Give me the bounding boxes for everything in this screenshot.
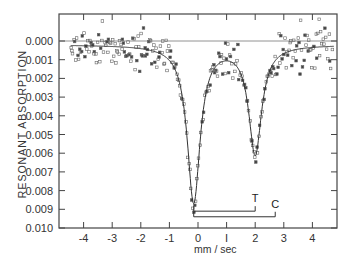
- x-tick-label: -1: [165, 232, 175, 244]
- x-tick-label: -4: [79, 232, 89, 244]
- data-point: [234, 70, 237, 73]
- data-point: [276, 73, 279, 76]
- data-point: [123, 51, 126, 54]
- data-point: [328, 60, 331, 63]
- x-tick-label: -2: [136, 232, 146, 244]
- data-point: [109, 42, 112, 45]
- data-point: [329, 67, 332, 70]
- mossbauer-spectrum-chart: 0.0000.0010.0020.0030.0040.0050.0060.007…: [0, 0, 352, 267]
- data-point: [121, 38, 124, 41]
- data-point: [95, 61, 98, 64]
- data-point: [115, 62, 118, 65]
- data-point: [166, 50, 169, 53]
- y-tick-label: 0.000: [25, 35, 53, 47]
- data-point: [284, 37, 287, 40]
- data-point: [282, 48, 285, 51]
- data-point: [277, 66, 280, 69]
- data-point: [236, 59, 239, 62]
- x-axis-title: mm / sec: [194, 243, 237, 255]
- data-point: [80, 50, 83, 53]
- data-point: [71, 52, 74, 55]
- x-tick-label: 4: [309, 232, 315, 244]
- data-point: [303, 59, 306, 62]
- data-point: [270, 72, 273, 75]
- data-point: [99, 47, 102, 50]
- data-point: [146, 53, 149, 56]
- y-tick-label: 0.009: [25, 203, 53, 215]
- data-point: [130, 60, 133, 63]
- data-point: [96, 41, 99, 44]
- data-point: [255, 161, 258, 164]
- data-point: [136, 59, 139, 62]
- data-point: [281, 58, 284, 61]
- y-tick-label: 0.002: [25, 72, 53, 84]
- data-point: [225, 58, 228, 61]
- data-point: [70, 46, 73, 49]
- data-point: [223, 57, 226, 60]
- data-point: [227, 71, 230, 74]
- y-tick-label: 0.003: [25, 91, 53, 103]
- data-point: [155, 47, 158, 50]
- data-point: [325, 48, 328, 51]
- data-point: [77, 58, 80, 61]
- data-point: [140, 32, 143, 35]
- data-point: [114, 42, 117, 45]
- data-point: [153, 44, 156, 47]
- data-point: [107, 51, 110, 54]
- data-point: [286, 54, 289, 57]
- data-point: [158, 56, 161, 59]
- data-point: [156, 66, 159, 69]
- data-point: [137, 45, 140, 48]
- data-point: [142, 27, 145, 30]
- data-point: [318, 18, 321, 21]
- data-point: [299, 73, 302, 76]
- data-point: [166, 69, 169, 72]
- data-point: [111, 60, 114, 63]
- data-point: [285, 67, 288, 70]
- data-point: [305, 44, 308, 47]
- data-point: [209, 84, 212, 87]
- data-point: [272, 67, 275, 70]
- data-point: [324, 27, 327, 30]
- data-point: [301, 66, 304, 69]
- data-point: [169, 50, 172, 53]
- data-point: [274, 55, 277, 58]
- data-point: [83, 32, 86, 35]
- data-point: [107, 38, 110, 41]
- y-tick-label: 0.004: [25, 110, 53, 122]
- data-point: [328, 33, 331, 36]
- data-point: [101, 39, 104, 42]
- data-points: [70, 18, 334, 214]
- data-point: [101, 20, 104, 23]
- data-point: [319, 30, 322, 33]
- data-point: [291, 64, 294, 67]
- data-point: [134, 68, 137, 71]
- data-point: [229, 55, 232, 58]
- data-point: [213, 63, 216, 66]
- data-point: [150, 63, 153, 66]
- x-tick-label: 3: [281, 232, 287, 244]
- data-point: [310, 66, 313, 69]
- data-point: [154, 61, 157, 64]
- y-tick-label: 0.007: [25, 166, 53, 178]
- data-point: [122, 42, 125, 45]
- y-tick-label: 0.001: [25, 54, 53, 66]
- y-tick-label: 0.008: [25, 185, 53, 197]
- data-point: [254, 156, 257, 159]
- bracket-t: [194, 206, 255, 211]
- data-point: [292, 56, 295, 59]
- data-point: [214, 69, 217, 72]
- data-point: [237, 43, 240, 46]
- data-point: [232, 77, 235, 80]
- data-point: [233, 48, 236, 51]
- data-point: [86, 48, 89, 51]
- y-tick-label: 0.006: [25, 147, 53, 159]
- data-point: [216, 75, 219, 78]
- y-axis-title: RESONANT ABSORPTION: [16, 50, 28, 198]
- data-point: [314, 67, 317, 70]
- data-point: [121, 48, 124, 51]
- data-point: [84, 55, 87, 58]
- data-point: [141, 55, 144, 58]
- data-point: [179, 94, 182, 97]
- data-point: [315, 57, 318, 60]
